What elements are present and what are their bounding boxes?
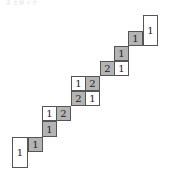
tableau-cell-white: 1 xyxy=(114,61,129,76)
tableau-cell-white: 1 xyxy=(85,91,100,106)
figure-caption: き と 分 ド ク xyxy=(6,0,66,5)
tableau-cell-gray: 1 xyxy=(42,121,57,137)
tableau-cell-gray: 2 xyxy=(85,76,100,91)
tableau-cell-gray: 1 xyxy=(28,137,43,152)
tableau-cell-white: 1 xyxy=(143,15,158,46)
tableau-cell-gray: 1 xyxy=(114,46,129,61)
tableau-cell-white: 1 xyxy=(71,76,86,91)
tableau-cell-white: 1 xyxy=(12,137,28,168)
tableau-cell-gray: 1 xyxy=(128,31,143,46)
tableau-cell-gray: 2 xyxy=(71,91,86,106)
tableau-cell-white: 1 xyxy=(42,106,57,121)
tableau-cell-gray: 2 xyxy=(100,61,115,76)
tableau-cell-gray: 2 xyxy=(56,106,71,121)
